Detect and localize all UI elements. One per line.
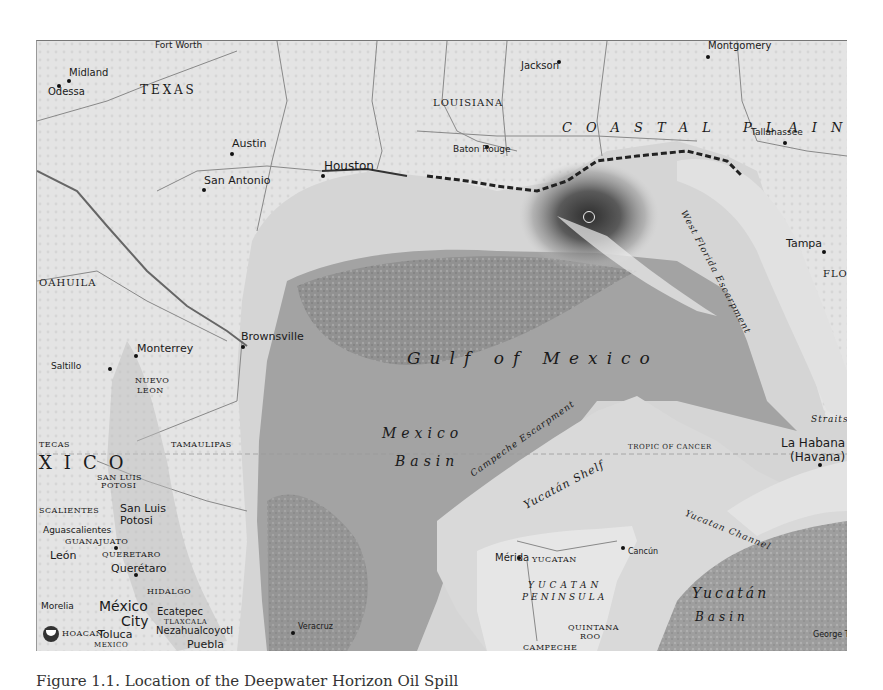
gulf-of-mexico-map[interactable]: Fort Worth Midland Odessa TEXAS Austin S…: [36, 40, 847, 651]
label-quintana-roo-2: ROO: [580, 633, 601, 641]
label-queretaro: Querétaro: [111, 563, 167, 574]
label-houston: Houston: [324, 160, 374, 172]
brownsville-dot-icon: [241, 345, 245, 349]
label-gulf-of-mexico: Gulf of Mexico: [407, 350, 659, 367]
label-louisiana: LOUISIANA: [433, 98, 503, 108]
label-leon: León: [50, 550, 76, 561]
label-campeche-state: CAMPECHE: [523, 644, 577, 651]
label-monterrey: Monterrey: [137, 343, 193, 354]
label-san-luis-potosi-2: Potosi: [120, 515, 153, 526]
label-puebla: Puebla: [187, 639, 224, 650]
midland-dot-icon: [67, 79, 71, 83]
label-la-habana-2: (Havana): [790, 451, 845, 463]
label-straits: Straits: [811, 415, 847, 424]
label-toluca: Toluca: [98, 629, 132, 640]
label-saltillo: Saltillo: [51, 362, 81, 371]
label-mexico-state: MEXICO: [94, 642, 128, 649]
label-morelia: Morelia: [41, 602, 74, 611]
label-midland: Midland: [69, 68, 108, 78]
label-veracruz: Veracruz: [298, 623, 333, 631]
label-odessa: Odessa: [48, 87, 85, 97]
label-coastal-plain: COASTAL PLAIN: [562, 121, 847, 134]
label-ecatepec: Ecatepec: [157, 607, 203, 617]
label-san-antonio: San Antonio: [204, 175, 271, 186]
label-texas: TEXAS: [140, 84, 197, 96]
label-cancun: Cancún: [628, 548, 658, 556]
montgomery-dot-icon: [706, 55, 710, 59]
label-jackson: Jackson: [521, 61, 559, 71]
tampa-dot-icon: [822, 250, 826, 254]
label-yucatan-state: YUCATAN: [532, 556, 577, 564]
label-quintana-roo-1: QUINTANA: [568, 624, 619, 632]
label-san-luis-potosi-1: San Luis: [120, 503, 166, 514]
label-tropic-of-cancer: TROPIC OF CANCER: [628, 444, 712, 451]
label-yucatan-basin-2: Basin: [695, 611, 749, 623]
label-mexico-city-1: México: [99, 599, 148, 613]
label-montgomery: Montgomery: [708, 41, 771, 51]
label-la-habana-1: La Habana: [781, 437, 845, 449]
label-coahuila: OAHUILA: [39, 278, 96, 288]
label-yucatan-peninsula-1: YUCATAN: [528, 581, 602, 590]
label-baton-rouge: Baton Rouge: [453, 145, 511, 154]
label-zacatecas: TECAS: [39, 441, 70, 449]
cancun-dot-icon: [621, 546, 625, 550]
label-tamaulipas: TAMAULIPAS: [171, 441, 232, 449]
veracruz-dot-icon: [291, 631, 295, 635]
label-queretaro-state: QUERETARO: [102, 551, 161, 559]
label-merida: Mérida: [495, 553, 529, 563]
label-fort-worth: Fort Worth: [155, 41, 202, 50]
saltillo-dot-icon: [108, 367, 112, 371]
san-antonio-dot-icon: [202, 188, 206, 192]
spill-site-marker-icon[interactable]: [583, 211, 595, 223]
label-george-town: George Tow: [813, 631, 847, 639]
label-florida: FLO: [823, 269, 847, 279]
label-aguascalientes: Aguascalientes: [43, 526, 111, 535]
label-mexico-basin-1: Mexico: [382, 426, 463, 440]
label-yucatan-peninsula-2: PENINSULA: [522, 593, 607, 602]
label-austin: Austin: [232, 138, 267, 149]
label-nuevo-leon-2: LEON: [137, 387, 164, 395]
label-san-luis-potosi-state-2: POTOSI: [101, 482, 136, 490]
houston-dot-icon: [321, 174, 325, 178]
label-mexico-country: XICO: [39, 454, 135, 472]
noaa-logo-icon: [43, 626, 59, 642]
label-mexico-city-2: City: [121, 614, 148, 628]
austin-dot-icon: [230, 152, 234, 156]
label-aguascalientes-state: SCALIENTES: [39, 507, 99, 515]
label-yucatan-basin-1: Yucatán: [692, 586, 769, 600]
label-guanajuato: GUANAJUATO: [65, 538, 128, 546]
label-nezahualcoyotl: Nezahualcoyotl: [156, 626, 233, 636]
label-hidalgo: HIDALGO: [147, 588, 191, 596]
label-tampa: Tampa: [786, 238, 822, 249]
label-brownsville: Brownsville: [241, 331, 304, 342]
label-mexico-basin-2: Basin: [395, 454, 459, 468]
figure-caption: Figure 1.1. Location of the Deepwater Ho…: [36, 672, 458, 690]
label-tallahassee: Tallahassee: [751, 128, 803, 137]
tallahassee-dot-icon: [783, 141, 787, 145]
label-nuevo-leon-1: NUEVO: [135, 377, 169, 385]
